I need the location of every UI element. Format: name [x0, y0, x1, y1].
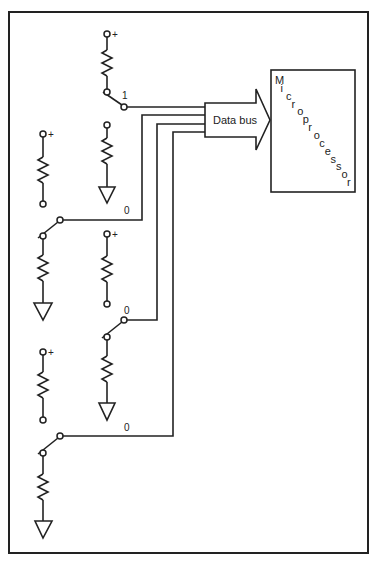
svg-text:+: + — [48, 129, 54, 140]
svg-text:0: 0 — [124, 422, 130, 433]
data-bus: Data bus — [205, 89, 270, 150]
data-bus-label: Data bus — [213, 114, 258, 126]
switch-3-circuit: + 0 — [99, 229, 130, 420]
wire-2 — [60, 115, 205, 220]
ground-icon — [35, 521, 52, 538]
svg-text:+: + — [112, 229, 118, 240]
resistor — [102, 50, 112, 76]
switch-state-label: 1 — [122, 90, 128, 101]
plus-label: + — [112, 29, 118, 40]
supply-terminal — [104, 31, 110, 37]
outer-frame — [9, 12, 368, 553]
wire-3 — [124, 124, 205, 320]
pulldown-1 — [99, 122, 115, 203]
microprocessor-label-letter: r — [308, 121, 312, 133]
ground-icon — [99, 187, 115, 203]
microprocessor-label-letter: r — [292, 98, 296, 110]
microprocessor-label-letter: r — [347, 176, 351, 188]
microprocessor-label: Microprocessor — [275, 74, 351, 188]
switch-1-circuit: + 1 — [102, 29, 128, 110]
svg-text:+: + — [48, 347, 54, 358]
svg-text:0: 0 — [124, 305, 130, 316]
ground-icon — [99, 403, 115, 420]
microprocessor: Microprocessor — [271, 70, 355, 192]
switch-2-circuit: + 0 — [34, 129, 130, 320]
wire-4 — [60, 132, 205, 436]
bus-wires — [60, 107, 205, 436]
svg-text:0: 0 — [124, 205, 130, 216]
microprocessor-label-letter: i — [281, 82, 283, 94]
diagram-canvas: Microprocessor Data bus + 1 + — [0, 0, 376, 561]
ground-icon — [34, 303, 52, 320]
switch-4-circuit: + 0 — [35, 347, 130, 538]
